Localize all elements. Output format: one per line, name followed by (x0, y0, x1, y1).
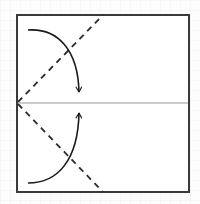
folding-diagram (0, 0, 200, 204)
